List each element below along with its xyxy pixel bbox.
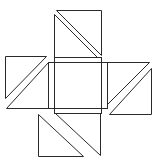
left-flap-triangle-upper (6, 57, 47, 99)
bottom-flap (39, 114, 101, 157)
center-square-b (49, 63, 108, 109)
right-flap-triangle-lower (110, 69, 152, 115)
left-flap (6, 57, 49, 109)
top-flap-triangle-upper (57, 11, 102, 56)
right-flap (108, 63, 152, 115)
bottom-flap-triangle-right (56, 114, 101, 156)
right-flap-triangle-upper (108, 63, 150, 105)
bottom-flap-triangle-left (39, 115, 84, 157)
top-flap (55, 11, 102, 58)
center-square-a (55, 58, 102, 114)
top-flap-triangle-lower (55, 15, 98, 58)
cube-net-diagram (0, 0, 157, 162)
left-flap-triangle-lower (7, 63, 49, 109)
